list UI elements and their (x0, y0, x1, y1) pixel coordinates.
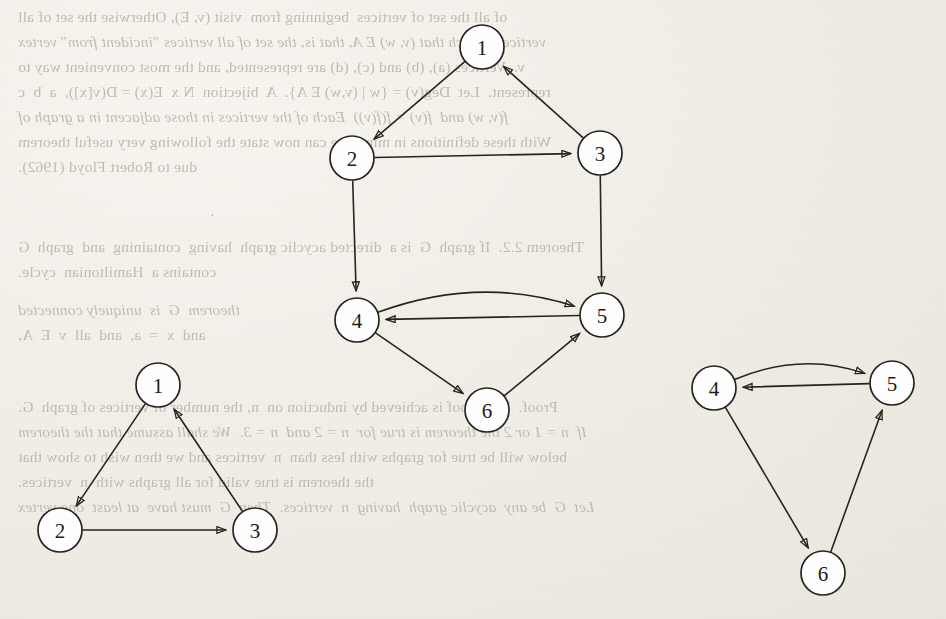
figure-left-triangle-digraph: 123 (38, 363, 277, 552)
graph-node-label: 3 (595, 142, 606, 166)
graph-node-label: 1 (477, 36, 488, 60)
graph-edge (831, 411, 882, 552)
graph-edge (353, 181, 356, 291)
graph-node: 6 (465, 388, 509, 432)
graph-node-label: 4 (709, 377, 720, 401)
graph-node-label: 4 (352, 309, 363, 333)
graph-node-label: 5 (887, 372, 898, 396)
graph-edge (744, 384, 870, 388)
figure-main-digraph: 123456 (330, 25, 624, 432)
graph-node: 2 (330, 136, 374, 180)
graph-edge (387, 316, 580, 320)
graph-edge (375, 154, 571, 158)
graph-edge (379, 292, 574, 312)
graph-node-label: 2 (55, 519, 66, 543)
graph-edge (374, 62, 464, 139)
graph-edge (726, 408, 808, 548)
graph-node: 3 (578, 131, 622, 175)
graph-edge (77, 404, 146, 506)
graph-node: 2 (38, 508, 82, 552)
graph-node: 3 (233, 508, 277, 552)
graph-figures-layer: 123456 123 456 (0, 0, 946, 619)
graph-node-label: 3 (250, 519, 261, 543)
graph-node: 1 (460, 25, 504, 69)
graph-node-label: 5 (597, 304, 608, 328)
graph-node: 5 (870, 361, 914, 405)
graph-node: 6 (801, 551, 845, 595)
graph-edge (600, 176, 601, 286)
graph-node-label: 6 (482, 399, 493, 423)
graph-node-label: 1 (153, 374, 164, 398)
figure-right-triangle-digraph: 456 (692, 361, 914, 595)
graph-node: 4 (335, 298, 379, 342)
graph-node-label: 2 (347, 147, 358, 171)
scanned-page: of all the set of vertices beginning fro… (0, 0, 946, 619)
graph-edge (376, 333, 463, 393)
graph-edge (505, 334, 580, 396)
graph-node: 1 (136, 363, 180, 407)
graph-node: 4 (692, 366, 736, 410)
graph-edge (504, 67, 583, 138)
graph-node-label: 6 (818, 562, 829, 586)
graph-edge (735, 364, 864, 380)
graph-edge (174, 410, 242, 511)
graph-node: 5 (580, 293, 624, 337)
